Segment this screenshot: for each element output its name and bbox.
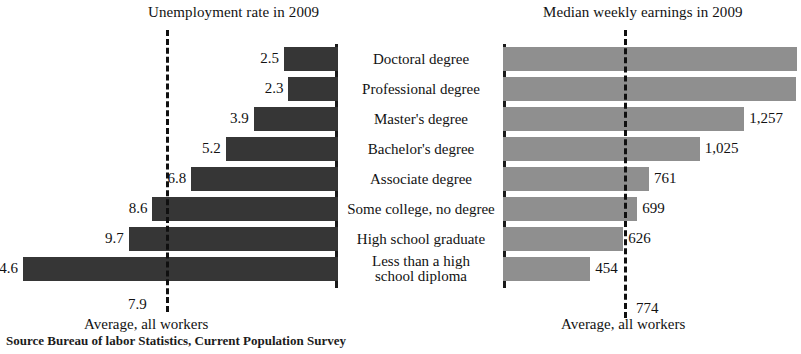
unemployment-bar [284,47,338,71]
unemployment-bar-value: 2.5 [260,46,279,70]
unemployment-bar [152,197,338,221]
median-earnings-bar-value: 1,257 [749,106,783,130]
median-earnings-plot-area: $ 1,5321,5291,2571,025761699626454 [503,44,800,288]
median-earnings-bar-row: $ 1,532 [503,44,800,74]
unemployment-bar-value: 3.9 [230,106,249,130]
median-earnings-bar [503,137,700,161]
left-chart-title: Unemployment rate in 2009 [148,4,319,21]
category-label-row: High school graduate [344,224,498,254]
unemployment-bar-row: 5.2 [20,134,338,164]
category-label-row: Less than a high school diploma [344,254,498,284]
unemployment-bar-value: 2.3 [265,76,284,100]
unemployment-bar-row: 14.6 [20,254,338,284]
unemployment-bar [23,257,338,281]
median-earnings-bar-value: 761 [654,166,677,190]
category-label-row: Doctoral degree [344,44,498,74]
unemployment-bar-row: 9.7 [20,224,338,254]
unemployment-bar-row: 2.5 [20,44,338,74]
unemployment-bar-value: 6.8 [168,166,187,190]
unemployment-bar-row: 8.6 [20,194,338,224]
category-label: Associate degree [370,172,472,187]
median-earnings-bar [503,167,649,191]
right-average-value: 774 [636,300,659,317]
unemployment-bar [129,227,338,251]
median-earnings-bar [503,197,637,221]
unemployment-bar [191,167,338,191]
unemployment-bar [226,137,338,161]
median-earnings-bar-row: 761 [503,164,800,194]
median-earnings-bar-row: 699 [503,194,800,224]
category-label: Professional degree [362,82,480,97]
category-label-row: Associate degree [344,164,498,194]
category-label-row: Master's degree [344,104,498,134]
median-earnings-bar [503,227,623,251]
category-label-row: Some college, no degree [344,194,498,224]
category-label: High school graduate [357,232,485,247]
median-earnings-bar-value: 1,025 [705,136,739,160]
median-earnings-bar-row: 1,257 [503,104,800,134]
median-earnings-bar-value: 699 [642,196,665,220]
unemployment-bar-row: 2.3 [20,74,338,104]
left-average-value: 7.9 [128,296,147,313]
unemployment-bar [254,107,338,131]
right-average-caption: Average, all workers [561,316,685,333]
unemployment-bar-row: 3.9 [20,104,338,134]
median-earnings-bar-row: 454 [503,254,800,284]
category-label: Less than a high school diploma [372,254,470,284]
category-label-row: Bachelor's degree [344,134,498,164]
left-average-reference-line [166,30,169,312]
category-label: Doctoral degree [373,52,469,67]
median-earnings-bar-value: 454 [595,256,618,280]
category-label-row: Professional degree [344,74,498,104]
median-earnings-bar-value: 626 [628,226,651,250]
median-earnings-bar-row: 626 [503,224,800,254]
median-earnings-bar-row: 1,529 [503,74,800,104]
unemployment-bar [288,77,338,101]
education-pays-chart-figure: Unemployment rate in 2009 Median weekly … [0,0,801,354]
category-label: Bachelor's degree [368,142,474,157]
median-earnings-bar-row: 1,025 [503,134,800,164]
unemployment-bar-value: 5.2 [202,136,221,160]
unemployment-rate-plot-area: 2.52.33.95.26.88.69.714.6 [20,44,338,288]
right-chart-title: Median weekly earnings in 2009 [543,4,743,21]
unemployment-bar-value: 8.6 [129,196,148,220]
median-earnings-bar [503,257,590,281]
left-average-caption: Average, all workers [84,316,208,333]
source-note: Source Bureau of labor Statistics, Curre… [6,333,346,349]
unemployment-bar-row: 6.8 [20,164,338,194]
median-earnings-bar [503,47,797,71]
right-average-reference-line [624,30,627,318]
category-label: Some college, no degree [347,202,494,217]
median-earnings-bar [503,77,796,101]
unemployment-bar-value: 9.7 [105,226,124,250]
unemployment-bar-value: 14.6 [0,256,18,280]
category-label: Master's degree [374,112,468,127]
category-label-column: Doctoral degreeProfessional degreeMaster… [344,44,498,288]
